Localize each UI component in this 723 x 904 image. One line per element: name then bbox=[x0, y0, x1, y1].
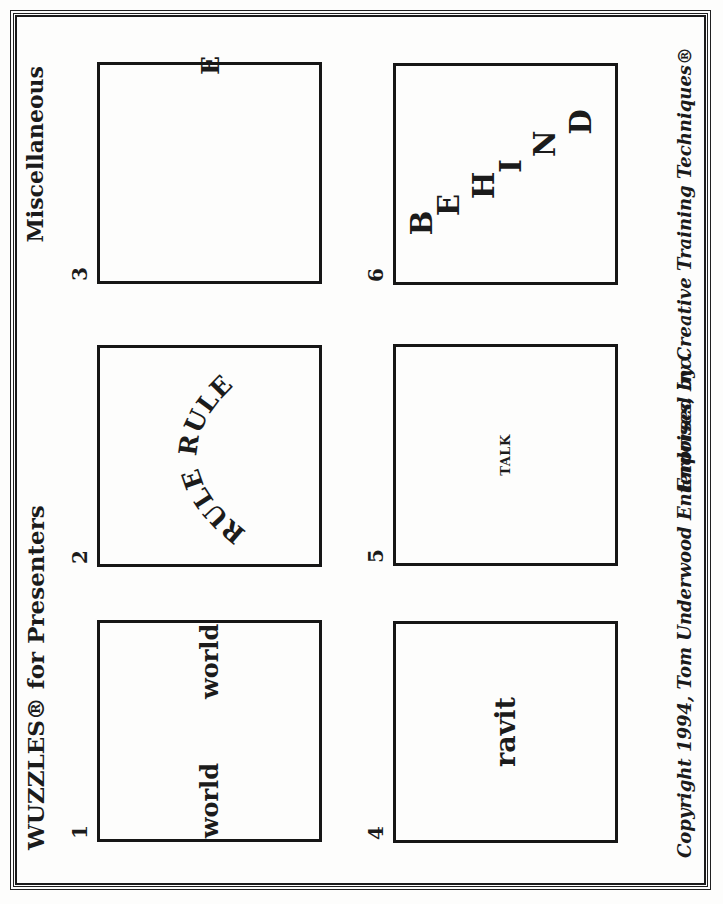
puzzle-number-2: 2 bbox=[69, 345, 91, 564]
puzzle-box-6: B E H I N D bbox=[393, 63, 618, 285]
landscape-page: WUZZLES® for Presenters Miscellaneous 1 … bbox=[0, 0, 723, 904]
page-title: WUZZLES® for Presenters bbox=[22, 505, 50, 850]
puzzle-cell-4: 4 ravit bbox=[365, 621, 618, 843]
puzzle-1-word-right: world bbox=[195, 624, 224, 699]
puzzle-number-3: 3 bbox=[69, 62, 91, 281]
category-title: Miscellaneous bbox=[22, 66, 48, 243]
puzzle-cell-3: 3 E bbox=[69, 62, 322, 284]
svg-text:RULE RULE: RULE RULE bbox=[173, 369, 250, 549]
puzzle-6-letter-d: D bbox=[567, 109, 596, 135]
puzzle-6-letter-h: H bbox=[470, 173, 499, 199]
puzzle-number-1: 1 bbox=[69, 620, 91, 839]
puzzle-1-content: world world bbox=[100, 623, 319, 839]
puzzle-3-edge-letter: E bbox=[197, 56, 222, 75]
endorsement-text: Endorsed by Creative Training Techniques… bbox=[674, 47, 695, 492]
puzzle-2-arc-text: RULE RULE bbox=[173, 369, 250, 549]
puzzle-number-6: 6 bbox=[365, 63, 387, 282]
arched-text-graphic: RULE RULE bbox=[100, 348, 319, 564]
puzzle-cell-5: 5 TALK bbox=[365, 344, 618, 566]
puzzle-6-letter-i: I bbox=[497, 153, 526, 179]
puzzle-cell-6: 6 B E H I N D bbox=[365, 63, 618, 285]
puzzle-cell-2: 2 RULE RULE bbox=[69, 345, 322, 567]
puzzle-6-letter-n: N bbox=[531, 131, 560, 157]
puzzle-box-1: world world bbox=[97, 620, 322, 842]
puzzle-box-4: ravit bbox=[393, 621, 618, 843]
puzzle-6-letter-e: E bbox=[435, 192, 464, 218]
puzzle-number-4: 4 bbox=[365, 621, 387, 840]
puzzle-number-5: 5 bbox=[365, 344, 387, 563]
scanned-worksheet-page: WUZZLES® for Presenters Miscellaneous 1 … bbox=[0, 0, 723, 904]
puzzle-4-content: ravit bbox=[396, 624, 615, 840]
puzzle-1-word-left: world bbox=[195, 763, 224, 838]
puzzle-5-content: TALK bbox=[396, 347, 615, 563]
puzzle-cell-1: 1 world world bbox=[69, 620, 322, 842]
puzzle-box-5: TALK bbox=[393, 344, 618, 566]
puzzle-box-3: E bbox=[97, 62, 322, 284]
puzzle-box-2: RULE RULE bbox=[97, 345, 322, 567]
